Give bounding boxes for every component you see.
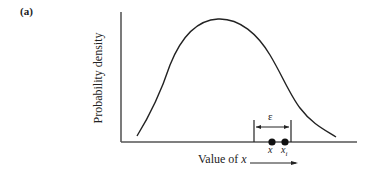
x-axis-label: Value of x [198, 152, 247, 167]
point-x-label: x [268, 144, 272, 155]
point-xi-label: xi [281, 144, 287, 158]
density-curve [137, 19, 336, 137]
direction-arrow-head [291, 161, 298, 165]
y-axis-label: Probability density [91, 33, 106, 124]
epsilon-label: ε [268, 110, 273, 122]
density-diagram [0, 0, 375, 179]
x-axis-label-prefix: Value of [198, 152, 241, 166]
point-xi-subscript: i [285, 150, 287, 158]
epsilon-arrow-left [256, 125, 261, 129]
epsilon-arrow-right [284, 125, 289, 129]
x-axis-label-var: x [241, 152, 246, 166]
